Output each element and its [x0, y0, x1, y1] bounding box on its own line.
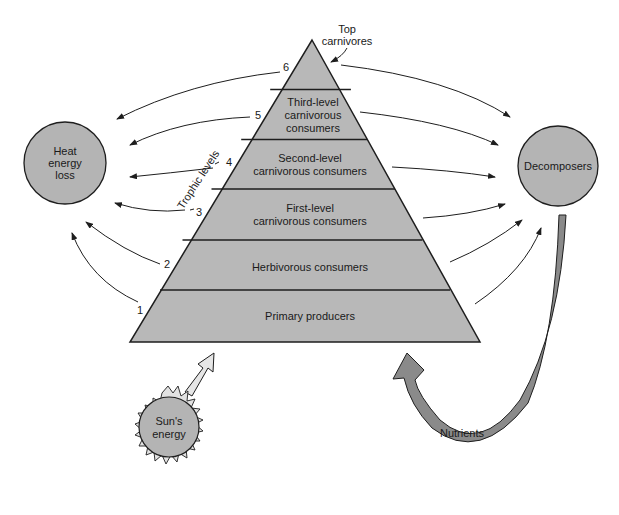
sun-circle: [139, 397, 199, 457]
svg-text:carnivorous: carnivorous: [285, 109, 342, 121]
svg-text:Heat: Heat: [53, 145, 76, 157]
arrow-level2-heat: [86, 222, 160, 264]
arrow-level4-decomp: [392, 167, 495, 177]
tick-3: [190, 209, 194, 210]
arrow-level1-heat: [72, 233, 138, 302]
top-carnivores-pointer: [331, 48, 347, 62]
svg-text:Sun's: Sun's: [155, 415, 183, 427]
svg-text:1: 1: [137, 304, 143, 316]
arrow-level3-decomp: [423, 204, 505, 218]
level-2-label: Herbivorous consumers: [252, 261, 369, 273]
svg-text:carnivores: carnivores: [322, 35, 373, 47]
svg-text:energy: energy: [152, 428, 186, 440]
svg-text:carnivorous consumers: carnivorous consumers: [253, 215, 367, 227]
level-1-label: Primary producers: [265, 310, 355, 322]
svg-text:First-level: First-level: [286, 202, 334, 214]
decomposers-node: Decomposers: [518, 126, 598, 206]
arrow-level2-decomp: [450, 220, 522, 262]
svg-text:4: 4: [226, 156, 232, 168]
arrow-level6-decomp: [341, 65, 510, 117]
svg-text:energy: energy: [48, 157, 82, 169]
svg-text:consumers: consumers: [286, 122, 340, 134]
svg-text:6: 6: [283, 61, 289, 73]
svg-text:5: 5: [255, 109, 261, 121]
svg-text:Second-level: Second-level: [278, 152, 342, 164]
svg-text:2: 2: [164, 258, 170, 270]
svg-text:3: 3: [196, 206, 202, 218]
sun-energy-arrow: [185, 353, 214, 396]
svg-text:Top: Top: [338, 23, 356, 35]
svg-text:Decomposers: Decomposers: [524, 160, 592, 172]
heat-energy-loss-node: Heat energy loss: [24, 122, 106, 204]
svg-text:Third-level: Third-level: [287, 96, 338, 108]
top-carnivores-label: Top carnivores: [322, 23, 373, 62]
nutrients-label: Nutrients: [440, 427, 485, 439]
svg-text:carnivorous consumers: carnivorous consumers: [253, 165, 367, 177]
level-5-label: Third-level carnivorous consumers: [285, 96, 342, 134]
arrow-level1-decomp: [475, 228, 541, 304]
arrow-level5-decomp: [360, 112, 498, 145]
sun-node: Sun's energy: [135, 353, 214, 464]
trophic-pyramid-diagram: Third-level carnivorous consumers Second…: [0, 0, 619, 515]
arrow-level5-heat: [130, 117, 250, 145]
svg-text:loss: loss: [55, 169, 75, 181]
